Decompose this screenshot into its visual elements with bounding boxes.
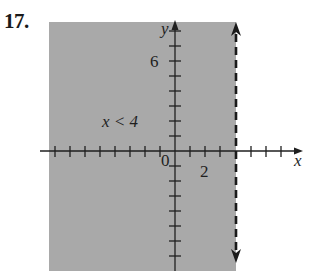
x-axis-label: x xyxy=(293,151,302,170)
origin-label: 0 xyxy=(161,151,170,170)
y-axis-label: y xyxy=(159,19,169,38)
shaded-region xyxy=(49,22,236,271)
x-tick-label-2: 2 xyxy=(200,162,209,181)
y-tick-label-6: 6 xyxy=(150,52,159,71)
inequality-label: x < 4 xyxy=(101,112,139,131)
inequality-graph: y 6 x < 4 0 2 x xyxy=(0,0,313,275)
